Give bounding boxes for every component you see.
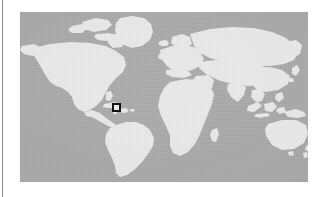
landmass-south-america	[105, 122, 154, 177]
location-highlight-box-icon	[112, 103, 121, 112]
landmass-iceland	[158, 40, 169, 46]
landmass-jamaica	[113, 112, 117, 114]
landmass-new-zealand-2	[303, 152, 308, 158]
landmass-sulawesi	[276, 107, 286, 114]
landmass-japan-2	[288, 78, 294, 82]
landmass-sumatra	[247, 102, 262, 112]
landmass-new-guinea	[284, 109, 306, 118]
page-margin-rule	[2, 0, 3, 197]
landmass-north-america	[34, 42, 126, 112]
landmass-new-zealand	[305, 145, 308, 151]
landmass-arctic-islands	[82, 18, 112, 32]
landmass-alaska	[20, 44, 42, 56]
landmass-central-america	[84, 110, 116, 128]
landmass-java	[254, 113, 270, 118]
world-map-figure	[20, 12, 308, 182]
landmass-japan	[292, 65, 300, 76]
landmass-philippines	[275, 92, 284, 102]
world-map-landmasses	[20, 12, 308, 182]
landmass-tasmania	[288, 151, 294, 156]
landmass-borneo	[264, 102, 277, 112]
landmass-madagascar	[210, 128, 219, 142]
landmass-india	[227, 83, 246, 102]
landmass-africa	[158, 79, 214, 156]
landmass-baffin-island	[108, 34, 126, 48]
landmass-australia	[265, 120, 308, 150]
landmass-florida	[106, 91, 113, 101]
landmass-asia-north	[190, 27, 298, 66]
landmass-east-asia	[249, 67, 290, 92]
landmass-puerto-rico	[130, 109, 135, 112]
